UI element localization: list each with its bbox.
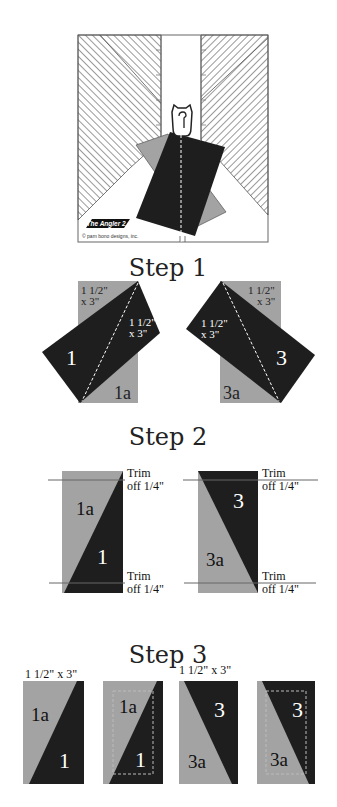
svg-text:x 3": x 3" — [201, 328, 219, 340]
piece-3-label: 3 — [276, 345, 287, 370]
copyright-text: © pam bono designs, inc. — [82, 233, 139, 239]
svg-text:1: 1 — [59, 748, 70, 773]
ruler-figure: The Angler 2. © pam bono designs, inc. — [78, 35, 268, 242]
step3-panel-1: 1a 1 — [23, 681, 84, 784]
step3-size-left: 1 1/2" x 3" — [25, 667, 77, 681]
svg-text:3a: 3a — [270, 749, 289, 770]
svg-text:3: 3 — [233, 488, 244, 513]
svg-text:x 3": x 3" — [129, 327, 147, 339]
svg-text:1: 1 — [135, 747, 146, 772]
step1-title: Step 1 — [129, 254, 208, 282]
step2-right-figure: 3 3a Trim off 1/4" Trim off 1/4" — [183, 466, 318, 596]
quilt-instructions-diagram: The Angler 2. © pam bono designs, inc. S… — [0, 0, 337, 807]
logo-text: The Angler 2. — [87, 220, 128, 228]
piece-3a-label: 3a — [223, 383, 240, 403]
svg-text:1a: 1a — [119, 696, 138, 717]
svg-text:Trim: Trim — [262, 569, 286, 583]
svg-text:Trim: Trim — [262, 466, 286, 480]
step3-size-right: 1 1/2" x 3" — [179, 663, 231, 677]
step3-panel-3: 3 3a — [179, 681, 238, 784]
step3-panel-2: 1a 1 — [103, 681, 163, 784]
svg-text:1a: 1a — [31, 704, 50, 725]
step3-panel-4: 3 3a — [257, 681, 315, 784]
svg-text:off 1/4": off 1/4" — [127, 479, 164, 493]
presser-foot-icon — [172, 105, 192, 136]
svg-text:Trim: Trim — [127, 466, 151, 480]
svg-text:off 1/4": off 1/4" — [127, 582, 164, 596]
svg-text:3: 3 — [292, 697, 303, 722]
svg-text:3a: 3a — [206, 549, 225, 570]
svg-text:Trim: Trim — [127, 569, 151, 583]
svg-text:off 1/4": off 1/4" — [262, 479, 299, 493]
svg-text:1a: 1a — [76, 498, 95, 519]
svg-text:off 1/4": off 1/4" — [262, 582, 299, 596]
svg-text:3a: 3a — [188, 751, 207, 772]
step1-left-figure: 1 1/2" x 3" 1 1/2" x 3" 1 1a — [42, 281, 160, 403]
step2-title: Step 2 — [129, 423, 208, 451]
step2-left-figure: 1a 1 Trim off 1/4" Trim off 1/4" — [48, 466, 164, 596]
piece-1-label: 1 — [66, 345, 77, 370]
svg-text:3: 3 — [214, 697, 225, 722]
piece-1a-label: 1a — [114, 383, 131, 403]
svg-text:1: 1 — [97, 544, 108, 569]
svg-text:x 3": x 3" — [81, 295, 99, 307]
angler-logo: The Angler 2. — [86, 219, 130, 228]
step1-right-figure: 1 1/2" x 3" 1 1/2" x 3" 3 3a — [186, 281, 315, 403]
svg-text:x 3": x 3" — [257, 295, 275, 307]
